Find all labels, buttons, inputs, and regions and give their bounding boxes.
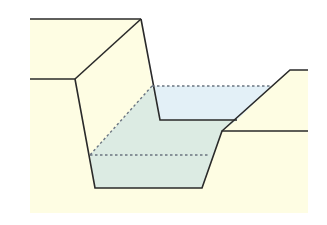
channel-cross-section-diagram bbox=[0, 0, 327, 225]
